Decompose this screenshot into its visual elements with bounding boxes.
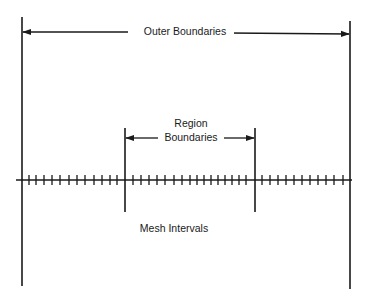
region-boundaries-label-line2: Boundaries bbox=[158, 131, 224, 144]
outer-boundaries-label: Outer Boundaries bbox=[136, 25, 234, 38]
mesh-boundary-diagram bbox=[0, 0, 369, 300]
region-boundaries-label-line1: Region bbox=[158, 117, 224, 130]
mesh-intervals-label: Mesh Intervals bbox=[128, 222, 220, 235]
outer-boundary-right-arrow bbox=[229, 33, 349, 34]
